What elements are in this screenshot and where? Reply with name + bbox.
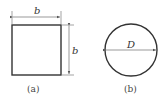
diameter-label: D — [126, 39, 135, 50]
caption-b: (b) — [124, 84, 137, 94]
figure-b-circle: D (b) — [105, 24, 157, 94]
width-label: b — [34, 5, 40, 16]
cross-section-diagram: b b (a) D (b) — [0, 0, 165, 100]
square-shape — [12, 25, 61, 75]
figure-a-square: b b (a) — [12, 5, 78, 94]
caption-a: (a) — [27, 84, 39, 94]
height-label: b — [72, 45, 78, 56]
